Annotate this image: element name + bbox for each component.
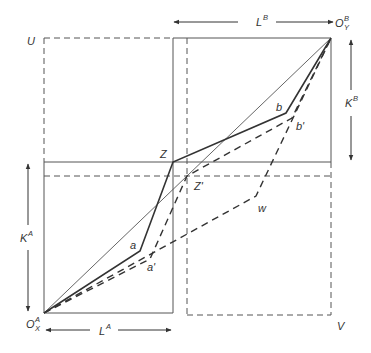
label-b-prime: b'	[296, 120, 305, 132]
svg-text:K: K	[345, 97, 353, 109]
svg-text:K: K	[20, 232, 28, 244]
label-a-prime: a'	[147, 261, 156, 273]
svg-text:A: A	[105, 322, 111, 331]
origin-b-label: O B Y	[335, 14, 350, 32]
svg-text:A: A	[27, 229, 33, 238]
svg-text:L: L	[99, 325, 105, 337]
svg-text:O: O	[335, 17, 344, 29]
label-z: Z	[159, 148, 168, 160]
svg-text:L: L	[256, 16, 262, 28]
label-z-prime: Z'	[193, 180, 204, 192]
origin-a-label: O A X	[26, 315, 41, 333]
label-u: U	[27, 35, 35, 47]
svg-text:Y: Y	[344, 23, 350, 32]
label-v: V	[337, 320, 346, 332]
svg-text:A: A	[34, 315, 40, 324]
svg-text:B: B	[353, 94, 358, 103]
svg-text:B: B	[344, 14, 349, 23]
edgeworth-box-diagram: U V Z Z' a a' b b' w O A X O B Y L B K B…	[0, 0, 371, 353]
svg-text:O: O	[26, 318, 35, 330]
la-label: L A	[99, 322, 111, 337]
kb-label: K B	[345, 94, 358, 109]
svg-text:B: B	[263, 13, 268, 22]
box-b-solid	[173, 38, 331, 162]
svg-text:X: X	[34, 324, 41, 333]
lb-label: L B	[256, 13, 268, 28]
label-b: b	[276, 101, 282, 113]
label-w: w	[258, 202, 267, 214]
ka-label: K A	[20, 229, 33, 244]
label-a: a	[130, 239, 136, 251]
